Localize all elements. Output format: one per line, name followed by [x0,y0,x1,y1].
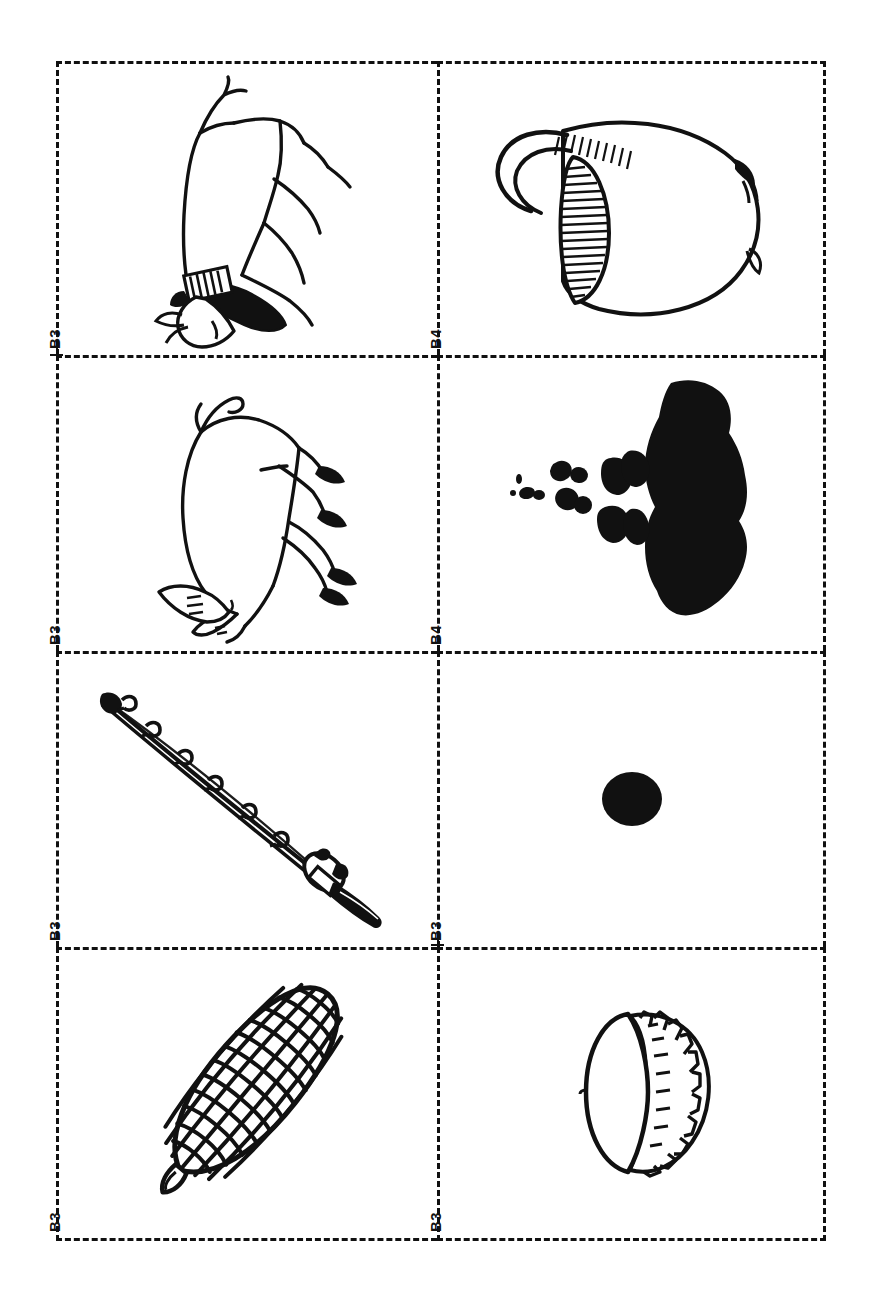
card-label: B3 [46,921,63,941]
picture-card[interactable]: B3 [56,651,437,947]
corn-stalk-tip [156,1164,188,1198]
jug-with-handle-illustration [440,64,823,355]
picture-card[interactable]: B3 [56,355,437,651]
card-label: B3 [46,329,63,349]
fishing-rod-illustration [59,654,437,947]
goat-with-collar-illustration [59,64,437,355]
picture-card[interactable]: B3 [437,651,826,947]
card-label: B4 [427,625,444,645]
picture-card[interactable]: B3 [56,61,437,355]
picture-card-grid: B3 [56,61,826,1241]
card-label: B3 [427,921,444,941]
card-label: B3 [427,1212,444,1232]
pig-illustration [59,358,437,651]
pig-hooves [315,466,357,606]
picture-card[interactable]: B4 [437,61,826,355]
bottle-cap-illustration [440,950,823,1238]
picture-card[interactable]: B4 [437,355,826,651]
ink-blot-main [645,380,747,615]
corn-on-the-cob-illustration [59,950,437,1238]
card-label: B4 [427,329,444,349]
ink-blot-specks [510,458,592,514]
registration-tick [437,938,439,951]
black-dot [602,772,662,826]
scanned-page: B3 [0,0,877,1315]
ink-blot-spill-illustration [440,358,823,651]
card-label: B3 [46,625,63,645]
card-label: B3 [46,1212,63,1232]
ink-blot-cluster [597,450,649,544]
registration-tick [56,348,58,361]
bottle-cap-top [586,1014,648,1172]
rod-handle [330,884,380,926]
picture-card[interactable]: B3 [56,947,437,1241]
picture-card[interactable]: B3 [437,947,826,1241]
black-dot-illustration [440,654,823,947]
rod-shaft-lower [112,712,328,890]
